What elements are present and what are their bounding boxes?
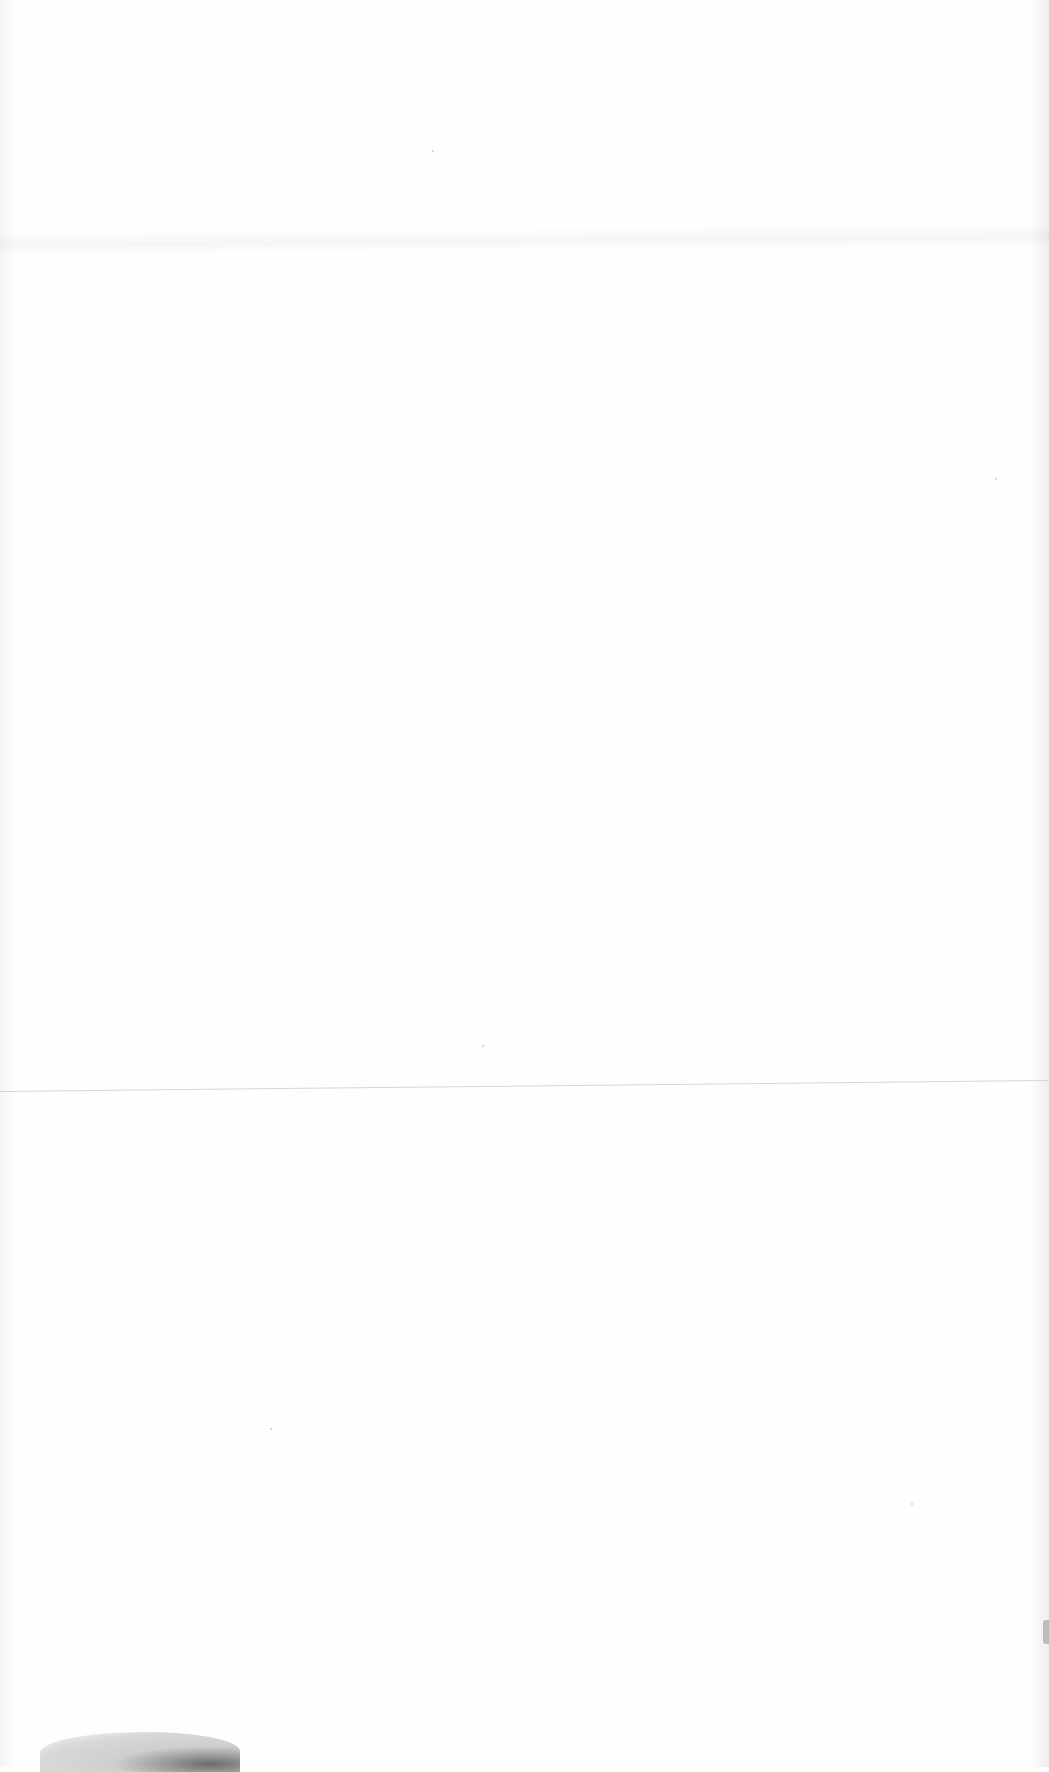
dust-speck bbox=[432, 150, 434, 152]
bottom-left-smudge bbox=[40, 1732, 240, 1772]
dust-speck bbox=[911, 1503, 913, 1505]
right-edge-mark bbox=[1043, 1620, 1049, 1644]
upper-fold-crease bbox=[0, 224, 1049, 254]
dust-speck bbox=[995, 478, 997, 480]
dust-speck bbox=[270, 1428, 272, 1430]
dust-speck bbox=[482, 1045, 484, 1047]
middle-fold-line bbox=[0, 1080, 1049, 1092]
